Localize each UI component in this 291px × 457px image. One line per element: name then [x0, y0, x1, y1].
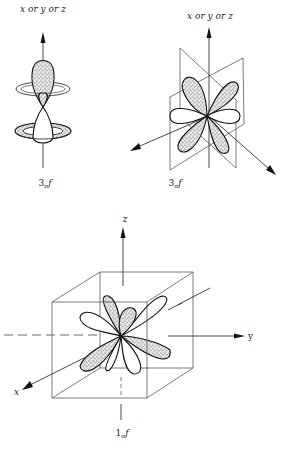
orbital-label-suffix: f: [47, 178, 53, 188]
cube-edge: [147, 368, 193, 398]
y-axis-label: y: [247, 331, 254, 341]
orbital-label-suffix: f: [177, 178, 183, 188]
orbital-label: 3σf: [168, 178, 183, 189]
vertical-axis-arrow-icon: [207, 27, 212, 38]
x-axis-arrow-icon: [22, 381, 33, 390]
x-axis-label: x: [14, 387, 19, 397]
orbital-label-suffix: f: [124, 428, 130, 438]
upper-cone: [39, 93, 47, 107]
cube-edge: [52, 368, 100, 398]
axis-label: x or y or z: [20, 4, 66, 14]
x-axis-negative-segment: [168, 288, 210, 310]
z-axis-arrow-icon: [121, 227, 126, 238]
y-axis-arrow-icon: [234, 334, 245, 339]
orbital-label: 1σf: [115, 428, 130, 439]
orbital-label: 3σf: [38, 178, 53, 189]
axis-right-arrow-icon: [266, 165, 276, 175]
figure-top-right: x or y or z 3σf: [130, 11, 276, 189]
figure-top-left: x or y or z 3σf: [15, 4, 71, 189]
cube-edge: [147, 272, 193, 302]
z-axis-label: z: [122, 214, 128, 224]
orbital-diagram: x or y or z 3σf x or y or z: [0, 0, 291, 457]
axis-label: x or y or z: [187, 11, 233, 21]
lower-lobe: [33, 107, 53, 143]
figure-bottom: z y x 1σf: [4, 214, 254, 439]
axis-left-arrow-icon: [130, 143, 141, 151]
cube-edge: [52, 272, 100, 302]
axis-arrow-icon: [41, 32, 46, 43]
